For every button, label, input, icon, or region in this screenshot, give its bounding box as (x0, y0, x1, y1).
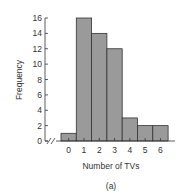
y-tick-label: 10 (33, 59, 43, 69)
x-tick-label: 5 (143, 145, 148, 155)
y-tick-label: 12 (33, 44, 43, 54)
histogram-chart: 0246810121416 0123456 Frequency Number o… (0, 0, 192, 193)
x-tick-label: 2 (97, 145, 102, 155)
x-tick-label: 1 (82, 145, 87, 155)
y-tick-label: 14 (33, 28, 43, 38)
y-tick-label: 8 (37, 75, 42, 85)
figure-caption: (a) (106, 181, 117, 191)
y-tick-label: 2 (37, 121, 42, 131)
x-tick-label: 3 (112, 145, 117, 155)
y-axis: 0246810121416 (33, 13, 48, 146)
y-tick-label: 4 (37, 105, 42, 115)
bars (61, 18, 168, 141)
x-tick-label: 0 (66, 145, 71, 155)
bar-4 (122, 118, 137, 141)
bar-3 (107, 49, 122, 141)
y-tick-label: 0 (37, 136, 42, 146)
x-tick-label: 6 (158, 145, 163, 155)
x-axis-title: Number of TVs (82, 161, 139, 171)
y-tick-label: 6 (37, 90, 42, 100)
y-axis-title: Frequency (14, 59, 24, 100)
bar-1 (76, 18, 91, 141)
x-tick-label: 4 (127, 145, 132, 155)
bar-2 (92, 33, 107, 141)
y-tick-label: 16 (33, 13, 43, 23)
